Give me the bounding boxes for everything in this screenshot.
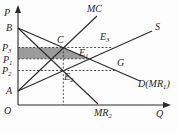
label-G: G (117, 57, 124, 68)
label-D-MR1: D(MR1) (137, 78, 170, 90)
label-P1: P1 (2, 54, 13, 66)
label-P-axis: P (3, 7, 10, 18)
label-C: C (57, 34, 64, 45)
label-S: S (155, 21, 160, 32)
label-P2: P2 (1, 65, 12, 77)
label-E1: E1 (78, 47, 89, 59)
label-O: O (4, 105, 11, 116)
label-Q-axis: Q (156, 108, 164, 119)
diagram-canvas: PBP3P1P2AOQMCSE3CE1E2GD(MR1)MR2 (0, 0, 178, 133)
label-P3: P3 (1, 42, 12, 54)
label-E3: E3 (99, 31, 110, 43)
line-supply-S (18, 31, 152, 91)
label-MC: MC (86, 3, 102, 14)
economics-diagram: PBP3P1P2AOQMCSE3CE1E2GD(MR1)MR2 (0, 0, 178, 133)
label-B: B (6, 22, 12, 33)
label-E2: E2 (63, 71, 74, 83)
q-axis-arrowhead (163, 102, 171, 108)
label-A: A (5, 85, 13, 96)
label-MR2: MR2 (93, 107, 112, 119)
p-axis-arrowhead (15, 5, 21, 13)
